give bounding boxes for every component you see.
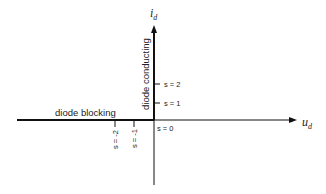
tick-label-sneg2: s = -2 [111,130,120,149]
tick-label-s2: s = 2 [164,80,180,89]
x-axis-arrow-icon [289,117,297,123]
y-axis-arrow-icon [151,25,157,33]
conducting-label: diode conducting [140,38,151,110]
y-axis-label: id [150,6,158,22]
tick-label-s0: s = 0 [157,124,173,133]
diagram-svg: id ud diode blocking diode conducting s … [0,0,326,194]
blocking-label: diode blocking [55,107,116,118]
diode-characteristic-diagram: id ud diode blocking diode conducting s … [0,0,326,194]
tick-label-s1: s = 1 [164,99,180,108]
x-axis-label: ud [302,115,313,131]
tick-label-sneg1: s = -1 [130,129,139,148]
